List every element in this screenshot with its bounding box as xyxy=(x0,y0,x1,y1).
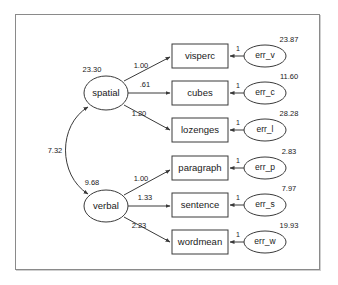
observed-variable-visperc[interactable]: visperc xyxy=(172,44,228,68)
cubes-label: cubes xyxy=(187,87,213,98)
err_c-label: err_c xyxy=(255,87,275,97)
verbal-variance: 9.68 xyxy=(85,178,100,187)
error-term-err_c[interactable]: 1 err_c 11.60 xyxy=(230,72,298,104)
latent-factor-spatial[interactable]: spatial 23.30 xyxy=(83,65,128,110)
error-unit-err_v: 1 xyxy=(236,45,240,52)
error-unit-err_p: 1 xyxy=(236,157,240,164)
err_s-variance: 7.97 xyxy=(282,184,297,193)
err_l-variance: 28.28 xyxy=(280,109,299,118)
loading-path-sentence: 1.33 xyxy=(128,193,170,206)
err_p-label: err_p xyxy=(255,162,275,172)
loading-path-paragraph: 1.00 xyxy=(124,170,170,195)
loading-path-wordmean: 2.23 xyxy=(124,217,170,242)
covariance-value: 7.32 xyxy=(48,146,63,155)
loading-path-cubes: .61 xyxy=(128,80,170,93)
loading-path-visperc: 1.00 xyxy=(124,57,170,81)
observed-variable-sentence[interactable]: sentence xyxy=(172,193,228,217)
err_w-label: err_w xyxy=(254,236,276,246)
error-term-err_w[interactable]: 1 err_w 19.93 xyxy=(230,221,298,253)
loading-value-cubes: .61 xyxy=(140,80,150,89)
observed-variable-paragraph[interactable]: paragraph xyxy=(172,156,228,180)
err_v-variance: 23.87 xyxy=(280,35,299,44)
observed-variable-lozenges[interactable]: lozenges xyxy=(172,118,228,142)
sem-path-diagram: 7.32 spatial 23.30 verbal 9.68 1.00 .61 … xyxy=(0,0,338,285)
loading-value-visperc: 1.00 xyxy=(134,61,149,70)
observed-variable-cubes[interactable]: cubes xyxy=(172,81,228,105)
verbal-label: verbal xyxy=(93,200,119,211)
loading-value-sentence: 1.33 xyxy=(138,193,153,202)
err_l-label: err_l xyxy=(256,124,273,134)
error-term-err_s[interactable]: 1 err_s 7.97 xyxy=(230,184,296,216)
spatial-variance: 23.30 xyxy=(83,65,102,74)
paragraph-label: paragraph xyxy=(178,162,221,173)
wordmean-label: wordmean xyxy=(177,236,222,247)
observed-variable-wordmean[interactable]: wordmean xyxy=(172,230,228,254)
err_w-variance: 19.93 xyxy=(280,221,299,230)
error-term-err_v[interactable]: 1 err_v 23.87 xyxy=(230,35,298,67)
latent-factor-verbal[interactable]: verbal 9.68 xyxy=(84,178,128,222)
error-unit-err_w: 1 xyxy=(236,231,240,238)
err_v-label: err_v xyxy=(255,50,275,60)
loading-value-paragraph: 1.00 xyxy=(134,174,149,183)
loading-value-wordmean: 2.23 xyxy=(132,221,147,230)
lozenges-label: lozenges xyxy=(181,124,219,135)
error-unit-err_s: 1 xyxy=(236,194,240,201)
err_c-variance: 11.60 xyxy=(280,72,298,81)
spatial-label: spatial xyxy=(92,87,119,98)
error-term-err_l[interactable]: 1 err_l 28.28 xyxy=(230,109,298,141)
loading-value-lozenges: 1.20 xyxy=(132,109,147,118)
error-unit-err_l: 1 xyxy=(236,119,240,126)
err_s-label: err_s xyxy=(255,199,274,209)
visperc-label: visperc xyxy=(185,50,215,61)
err_p-variance: 2.83 xyxy=(282,147,297,156)
factor-covariance-path: 7.32 xyxy=(48,107,88,194)
loading-path-lozenges: 1.20 xyxy=(124,105,170,130)
sentence-label: sentence xyxy=(181,199,220,210)
error-term-err_p[interactable]: 1 err_p 2.83 xyxy=(230,147,296,179)
error-unit-err_c: 1 xyxy=(236,82,240,89)
